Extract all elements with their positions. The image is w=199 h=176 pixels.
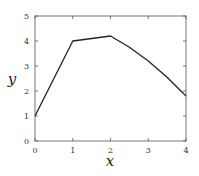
- line-chart: 01234 012345 x y: [0, 0, 199, 176]
- x-tick-label: 4: [183, 146, 188, 155]
- y-tick-label: 3: [24, 62, 29, 71]
- y-axis-label: y: [7, 70, 17, 88]
- x-tick-label: 3: [146, 146, 151, 155]
- x-tick-label: 0: [32, 146, 37, 155]
- x-tick-label: 1: [70, 146, 75, 155]
- y-tick-label: 5: [24, 12, 29, 21]
- x-axis-label: x: [106, 152, 115, 170]
- y-tick-label: 2: [24, 87, 29, 96]
- data-line: [35, 36, 186, 116]
- plot-frame: [35, 16, 186, 141]
- y-tick-labels: 012345: [24, 12, 29, 146]
- y-tick-label: 1: [24, 112, 29, 121]
- y-tick-label: 0: [24, 137, 29, 146]
- y-tick-label: 4: [24, 37, 29, 46]
- axis-ticks: [35, 16, 186, 141]
